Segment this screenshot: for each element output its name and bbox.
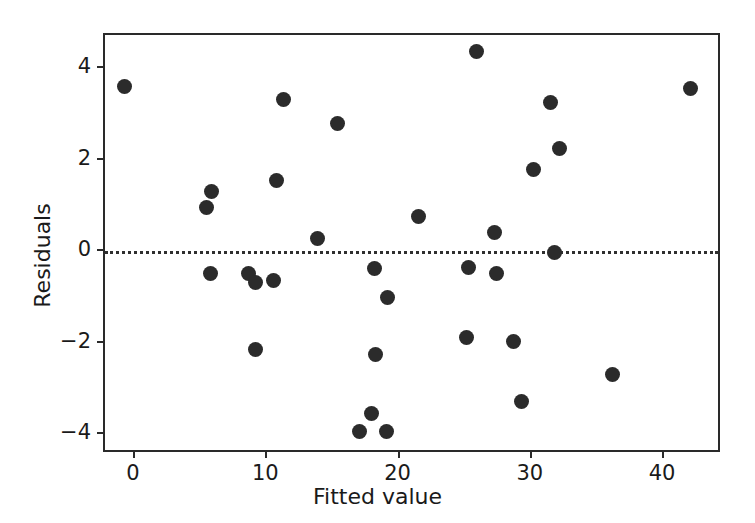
data-point xyxy=(459,330,474,345)
x-axis-tick-label: 30 xyxy=(516,461,543,485)
data-point xyxy=(469,44,484,59)
y-axis-tick xyxy=(97,341,104,343)
data-point xyxy=(266,273,281,288)
x-axis-tick-label: 10 xyxy=(252,461,279,485)
data-point xyxy=(506,334,521,349)
data-point xyxy=(368,347,383,362)
data-point xyxy=(276,92,291,107)
data-point xyxy=(248,342,263,357)
data-point xyxy=(204,184,219,199)
data-point xyxy=(411,209,426,224)
y-axis-tick-label: −4 xyxy=(60,420,91,444)
data-point xyxy=(552,141,567,156)
data-point xyxy=(352,424,367,439)
x-axis-tick xyxy=(265,451,267,458)
data-point xyxy=(543,95,558,110)
x-axis-tick xyxy=(530,451,532,458)
data-point xyxy=(489,266,504,281)
x-axis-tick xyxy=(398,451,400,458)
scatter-plot-figure: 010203040 −4−2024 Fitted value Residuals xyxy=(0,0,755,523)
data-point xyxy=(487,225,502,240)
data-point xyxy=(683,81,698,96)
y-axis-tick-label: 0 xyxy=(78,237,91,261)
y-axis-tick-label: 4 xyxy=(78,54,91,78)
y-axis-tick xyxy=(97,158,104,160)
y-axis-tick-label: −2 xyxy=(60,329,91,353)
x-axis-label: Fitted value xyxy=(0,484,755,509)
data-point xyxy=(117,79,132,94)
x-axis-tick-label: 0 xyxy=(126,461,139,485)
data-point xyxy=(380,290,395,305)
y-axis-tick xyxy=(97,249,104,251)
data-point xyxy=(248,275,263,290)
data-point xyxy=(367,261,382,276)
data-point xyxy=(514,394,529,409)
x-axis-tick-label: 20 xyxy=(384,461,411,485)
x-axis-tick xyxy=(662,451,664,458)
x-axis-tick xyxy=(133,451,135,458)
data-point xyxy=(269,173,284,188)
y-axis-tick-label: 2 xyxy=(78,146,91,170)
y-axis-tick xyxy=(97,66,104,68)
data-point xyxy=(364,406,379,421)
data-point xyxy=(330,116,345,131)
plot-area xyxy=(103,33,720,452)
data-point xyxy=(379,424,394,439)
y-axis-label: Residuals xyxy=(30,203,55,307)
data-point xyxy=(547,245,562,260)
x-axis-tick-label: 40 xyxy=(649,461,676,485)
zero-reference-line xyxy=(105,251,718,254)
data-point xyxy=(526,162,541,177)
data-point xyxy=(310,231,325,246)
data-point xyxy=(203,266,218,281)
data-point xyxy=(461,260,476,275)
data-point xyxy=(199,200,214,215)
y-axis-tick xyxy=(97,432,104,434)
data-point xyxy=(605,367,620,382)
